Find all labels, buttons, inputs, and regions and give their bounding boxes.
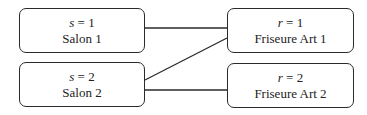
node-label: Salon 2 — [62, 85, 101, 101]
node-label: Salon 1 — [62, 31, 101, 47]
node-label: Friseure Art 2 — [254, 86, 326, 102]
node-label: Friseure Art 1 — [254, 31, 326, 47]
node-formula: s = 2 — [69, 69, 94, 85]
node-formula: r = 1 — [278, 15, 303, 31]
node-formula: s = 1 — [69, 15, 94, 31]
value: = 2 — [283, 70, 303, 85]
edge-s2-r1 — [145, 38, 227, 80]
node-formula: r = 2 — [278, 70, 303, 86]
node-salon-1: s = 1 Salon 1 — [19, 8, 145, 53]
node-salon-2: s = 2 Salon 2 — [19, 62, 145, 107]
value: = 2 — [74, 69, 94, 84]
node-friseure-art-1: r = 1 Friseure Art 1 — [227, 8, 354, 53]
node-friseure-art-2: r = 2 Friseure Art 2 — [227, 63, 354, 108]
value: = 1 — [74, 15, 94, 30]
value: = 1 — [283, 15, 303, 30]
